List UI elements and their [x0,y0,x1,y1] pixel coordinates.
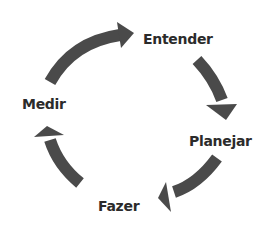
arrow-medir-to-entender [50,22,134,82]
arrow-entender-to-planejar [197,60,237,120]
step-label-planejar: Planejar [189,134,252,148]
cycle-arrows [0,0,272,227]
step-label-fazer: Fazer [98,199,139,213]
cycle-diagram: Entender Planejar Fazer Medir [0,0,272,227]
step-label-entender: Entender [143,32,213,46]
step-label-medir: Medir [22,97,66,111]
arrow-planejar-to-fazer [158,158,217,212]
arrow-fazer-to-medir [34,126,80,183]
